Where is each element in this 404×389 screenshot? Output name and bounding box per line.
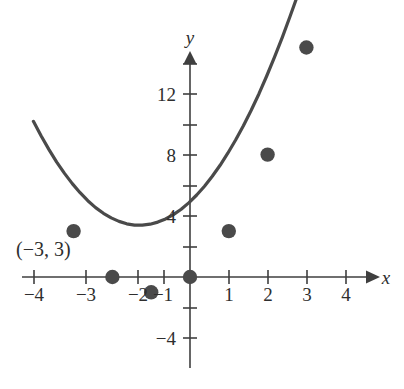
- data-point--3-3: [66, 224, 80, 238]
- y-tick-label-8: 8: [167, 145, 177, 166]
- x-tick-label-3: 3: [302, 284, 312, 305]
- coordinate-plane-svg: −4 −3 −2 −1 1 2 3 4 12 8 4 −4 x y (−3, 3…: [0, 0, 404, 389]
- x-tick-label--1: −1: [153, 284, 173, 305]
- x-tick-label-1: 1: [224, 284, 234, 305]
- y-axis-label: y: [184, 27, 195, 48]
- y-tick-label-4: 4: [167, 206, 177, 227]
- graph-figure: −4 −3 −2 −1 1 2 3 4 12 8 4 −4 x y (−3, 3…: [0, 0, 404, 389]
- y-tick-label-12: 12: [157, 84, 176, 105]
- parabola-curve: [33, 0, 297, 225]
- data-point-1-3: [222, 224, 236, 238]
- data-point-0-0: [183, 270, 197, 284]
- x-tick-label-4: 4: [341, 284, 351, 305]
- y-tick-label--4: −4: [156, 328, 177, 349]
- x-tick-label-2: 2: [263, 284, 273, 305]
- x-axis-label: x: [381, 267, 391, 288]
- x-tick-label--4: −4: [24, 284, 45, 305]
- y-axis-arrowhead: [184, 51, 197, 64]
- x-axis-arrowhead: [366, 271, 380, 284]
- data-point-3-15: [299, 40, 313, 54]
- data-point-2-8: [260, 147, 274, 161]
- x-tick-label--2: −2: [128, 284, 148, 305]
- x-tick-label--3: −3: [76, 284, 96, 305]
- data-point--2-0: [105, 270, 119, 284]
- point-annotation: (−3, 3): [16, 238, 71, 261]
